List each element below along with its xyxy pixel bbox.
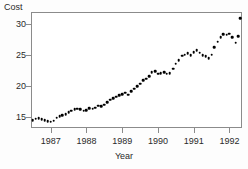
data-point [130, 90, 133, 93]
data-point [237, 35, 240, 38]
data-point [127, 93, 130, 96]
data-point [222, 33, 225, 36]
data-point [234, 42, 237, 45]
data-point [172, 67, 175, 70]
x-tick-label: 1990 [141, 136, 175, 146]
y-tick-label: 25 [6, 51, 26, 60]
data-point [79, 108, 82, 111]
data-point [175, 63, 178, 66]
data-point [168, 72, 171, 75]
x-tick-label: 1988 [69, 136, 103, 146]
data-point [64, 113, 67, 116]
data-point [186, 52, 189, 55]
data-point [124, 92, 127, 95]
y-tick-label: 30 [6, 20, 26, 29]
data-point [52, 119, 55, 122]
data-point [204, 55, 207, 58]
data-point [151, 71, 154, 74]
x-tick-mark [51, 128, 52, 133]
chart-figure: Cost 15202530 198719881989199019911992 Y… [0, 0, 248, 169]
x-tick-label: 1989 [105, 136, 139, 146]
data-point [213, 46, 216, 49]
data-point [34, 117, 37, 120]
data-point [103, 103, 106, 106]
data-point [106, 101, 109, 104]
data-point [61, 114, 64, 117]
data-point [207, 57, 210, 60]
data-point [228, 32, 231, 35]
y-tick-label: 20 [6, 82, 26, 91]
x-tick-mark [86, 128, 87, 133]
x-tick-label: 1992 [212, 136, 246, 146]
x-axis-title: Year [0, 151, 248, 162]
x-tick-mark [229, 128, 230, 133]
data-point [133, 87, 136, 90]
data-point [136, 85, 139, 88]
x-tick-mark [194, 128, 195, 133]
data-point [145, 77, 148, 80]
x-tick-label: 1987 [34, 136, 68, 146]
data-point [115, 95, 118, 98]
y-axis-title: Cost [4, 2, 23, 13]
data-point [43, 119, 46, 122]
data-points-layer [31, 12, 242, 128]
data-point [210, 53, 213, 56]
data-point [231, 36, 234, 39]
data-point [219, 36, 222, 39]
data-point [139, 82, 142, 85]
data-point [177, 59, 180, 62]
data-point [239, 17, 242, 20]
y-tick-label: 15 [6, 112, 26, 121]
data-point [70, 109, 73, 112]
data-point [88, 107, 91, 110]
data-point [148, 75, 151, 78]
x-tick-label: 1991 [177, 136, 211, 146]
data-point [216, 40, 219, 43]
data-point [160, 72, 163, 75]
data-point [97, 104, 100, 107]
x-tick-mark [122, 128, 123, 133]
data-point [142, 79, 145, 82]
x-tick-mark [158, 128, 159, 133]
data-point [195, 49, 198, 52]
data-point [190, 54, 193, 57]
